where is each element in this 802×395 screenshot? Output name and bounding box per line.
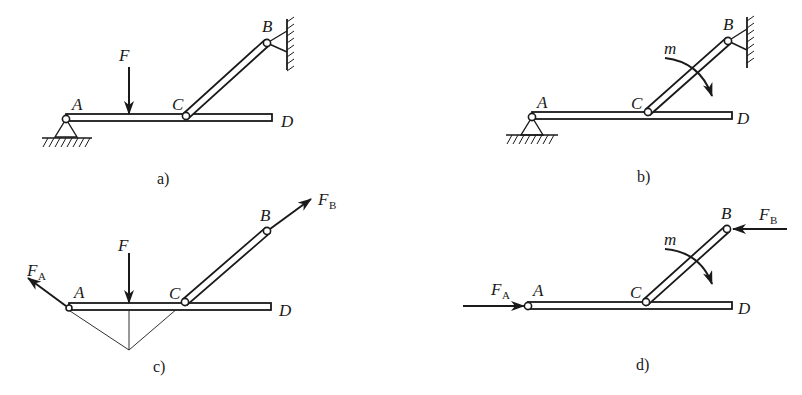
label-m: m [664, 230, 676, 249]
beam-AD [532, 112, 732, 119]
beam-AD [528, 302, 732, 309]
panel-b: m A C B D b) [506, 15, 754, 186]
label-B: B [721, 204, 732, 223]
beam-AD [66, 114, 272, 121]
pin-A [528, 113, 535, 120]
caption-d: d) [636, 356, 649, 374]
svg-text:F: F [317, 190, 329, 209]
label-D: D [278, 301, 292, 320]
label-D: D [736, 109, 750, 128]
force-FA-arrow-icon [28, 278, 66, 306]
rod-CB [644, 226, 730, 304]
pin-A [66, 305, 72, 311]
rod-CB [183, 228, 270, 305]
pin-C [181, 298, 188, 305]
rod-CB [184, 40, 269, 118]
label-D: D [280, 112, 294, 131]
label-FA: F A [490, 280, 510, 301]
label-C: C [172, 95, 184, 114]
label-C: C [631, 94, 643, 113]
label-B: B [260, 206, 271, 225]
svg-text:A: A [38, 270, 46, 282]
label-m: m [664, 39, 676, 58]
force-FB-arrow-icon [270, 199, 311, 229]
label-B: B [262, 17, 273, 36]
label-C: C [169, 284, 181, 303]
svg-text:F: F [490, 280, 502, 299]
rod-CB [646, 38, 731, 114]
svg-text:F: F [26, 261, 38, 280]
label-FA: F A [26, 261, 46, 282]
pin-B [723, 225, 730, 232]
label-FB: F B [317, 190, 336, 211]
pin-B [263, 227, 270, 234]
label-A: A [71, 95, 83, 114]
svg-text:F: F [758, 205, 770, 224]
pin-B [724, 37, 731, 44]
label-A: A [536, 93, 548, 112]
label-D: D [737, 299, 751, 318]
label-F: F [118, 46, 130, 65]
panel-c: F F A F B A C B D c) [26, 190, 336, 376]
label-C: C [630, 283, 642, 302]
label-FB: F B [758, 205, 777, 226]
pin-C [642, 298, 649, 305]
panel-d: m F A F B A C B D d) [463, 204, 787, 374]
pin-A [524, 302, 531, 309]
svg-text:B: B [770, 214, 777, 226]
pin-A [62, 115, 69, 122]
panel-a: F A C B D a) [42, 17, 294, 188]
pin-C [644, 108, 651, 115]
label-A: A [532, 281, 544, 300]
statics-figure: F A C B D a) m A C B D b) [0, 0, 802, 395]
label-A: A [73, 283, 85, 302]
beam-AD [69, 303, 271, 310]
pin-C [182, 112, 189, 119]
label-B: B [723, 15, 734, 34]
pin-B [263, 39, 270, 46]
svg-text:B: B [329, 199, 336, 211]
svg-text:A: A [502, 289, 510, 301]
label-F: F [117, 236, 129, 255]
caption-b: b) [637, 168, 650, 186]
caption-c: c) [153, 358, 165, 376]
caption-a: a) [157, 170, 169, 188]
